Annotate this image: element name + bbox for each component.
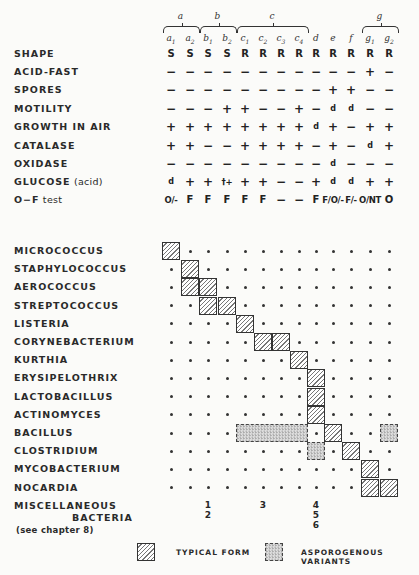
characteristic-value: + xyxy=(361,176,379,188)
grid-dot xyxy=(170,395,173,398)
characteristic-value: − xyxy=(307,103,325,115)
grid-dot xyxy=(207,359,210,362)
grid-dot xyxy=(207,486,210,489)
characteristic-value: − xyxy=(181,84,199,96)
grid-dot xyxy=(189,377,192,380)
grid-dot xyxy=(298,322,301,325)
grid-dot xyxy=(332,250,335,253)
grid-dot xyxy=(298,468,301,471)
grid-dot xyxy=(369,341,372,344)
characteristic-value: − xyxy=(361,158,379,170)
grid-dot xyxy=(388,286,391,289)
characteristic-value: − xyxy=(272,103,290,115)
characteristic-value: + xyxy=(218,121,236,133)
characteristic-value: − xyxy=(272,194,290,206)
characteristic-name: GROWTH IN AIR xyxy=(14,121,111,132)
characteristic-value: − xyxy=(342,140,360,152)
characteristic-value: F xyxy=(199,194,217,206)
characteristic-value: + xyxy=(380,121,398,133)
characteristic-value: + xyxy=(290,140,308,152)
grid-dot xyxy=(298,304,301,307)
grid-dot xyxy=(350,341,353,344)
characteristic-value: − xyxy=(272,84,290,96)
grid-dot xyxy=(280,304,283,307)
characteristic-value: − xyxy=(199,66,217,78)
misc-note: (see chapter 8) xyxy=(16,524,94,536)
group-label: g xyxy=(362,11,397,21)
grid-dot xyxy=(207,341,210,344)
grid-dot xyxy=(332,268,335,271)
grid-dot xyxy=(244,268,247,271)
characteristic-value: − xyxy=(181,158,199,170)
organism-label: STREPTOCOCCUS xyxy=(14,300,119,312)
grid-dot xyxy=(262,450,265,453)
grid-dot xyxy=(388,395,391,398)
characteristic-value: − xyxy=(254,84,272,96)
column-header: b1 xyxy=(199,33,217,45)
grid-dot xyxy=(189,304,192,307)
grid-dot xyxy=(207,432,210,435)
characteristic-value: − xyxy=(254,66,272,78)
characteristic-label: ACID-FAST xyxy=(14,66,79,78)
grid-dot xyxy=(189,395,192,398)
characteristic-value: S xyxy=(162,48,180,60)
grid-dot xyxy=(280,322,283,325)
grid-dot xyxy=(189,359,192,362)
asporogenous-variant-cell xyxy=(236,424,308,442)
characteristic-value: F xyxy=(236,194,254,206)
typical-form-cell xyxy=(361,479,379,497)
grid-dot xyxy=(189,486,192,489)
misc-bacteria-marker: 3 xyxy=(254,500,272,510)
characteristic-value: R xyxy=(307,48,325,60)
organism-label: NOCARDIA xyxy=(14,482,78,494)
grid-dot xyxy=(388,377,391,380)
misc-bacteria-marker: 1 2 xyxy=(199,500,217,520)
organism-label: MYCOBACTERIUM xyxy=(14,463,121,475)
typical-form-cell xyxy=(290,351,308,369)
organism-label: CLOSTRIDIUM xyxy=(14,445,99,457)
characteristic-value: + xyxy=(324,121,342,133)
characteristic-suffix: (acid) xyxy=(71,176,103,187)
grid-dot xyxy=(262,322,265,325)
characteristic-value: + xyxy=(380,140,398,152)
grid-dot xyxy=(369,322,372,325)
grid-dot xyxy=(207,250,210,253)
characteristic-value: F xyxy=(254,194,272,206)
legend-asporogenous-label: ASPOROGENOUS VARIANTS xyxy=(301,548,419,566)
characteristic-value: − xyxy=(307,158,325,170)
group-label: c xyxy=(237,11,307,21)
grid-dot xyxy=(207,268,210,271)
asporogenous-variant-cell xyxy=(307,442,325,460)
grid-dot xyxy=(350,250,353,253)
characteristic-suffix: test xyxy=(40,194,63,205)
characteristic-value: d xyxy=(324,158,342,170)
typical-form-cell xyxy=(199,278,217,296)
characteristic-value: R xyxy=(236,48,254,60)
grid-dot xyxy=(226,450,229,453)
characteristic-value: d xyxy=(342,176,360,188)
grid-dot xyxy=(315,359,318,362)
grid-dot xyxy=(262,250,265,253)
characteristic-name: SHAPE xyxy=(14,48,55,59)
characteristic-value: − xyxy=(342,121,360,133)
grid-dot xyxy=(298,377,301,380)
characteristic-value: − xyxy=(236,84,254,96)
column-header: a2 xyxy=(181,33,199,45)
grid-dot xyxy=(369,359,372,362)
grid-dot xyxy=(332,304,335,307)
grid-dot xyxy=(207,395,210,398)
organism-label: MICROCOCCUS xyxy=(14,245,104,257)
typical-form-cell xyxy=(181,260,199,278)
grid-dot xyxy=(369,413,372,416)
characteristic-value: − xyxy=(290,176,308,188)
characteristic-name: OXIDASE xyxy=(14,158,68,169)
grid-dot xyxy=(226,268,229,271)
grid-dot xyxy=(170,468,173,471)
misc-label-line1: MISCELLANEOUS xyxy=(14,500,117,512)
grid-dot xyxy=(262,468,265,471)
grid-dot xyxy=(298,413,301,416)
grid-dot xyxy=(262,304,265,307)
characteristic-value: R xyxy=(290,48,308,60)
characteristic-value: − xyxy=(290,66,308,78)
characteristic-value: F xyxy=(218,194,236,206)
